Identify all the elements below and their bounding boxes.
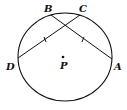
label-p: P bbox=[59, 60, 68, 71]
center-point bbox=[62, 56, 65, 59]
circle bbox=[18, 13, 112, 101]
chord-ba bbox=[51, 15, 112, 59]
label-c: C bbox=[79, 3, 87, 14]
circle-diagram: B C D A P bbox=[0, 0, 127, 110]
label-d: D bbox=[5, 61, 15, 72]
chord-cd bbox=[18, 15, 80, 58]
label-b: B bbox=[43, 3, 52, 14]
label-a: A bbox=[113, 61, 122, 72]
